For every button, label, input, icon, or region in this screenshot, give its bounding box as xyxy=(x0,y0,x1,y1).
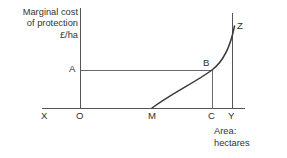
point-label-a: A xyxy=(69,63,75,74)
x-axis-label-line-2: hectares xyxy=(214,138,250,150)
x-axis-label-line-1: Area: xyxy=(214,126,250,138)
point-label-c: C xyxy=(208,110,215,121)
point-label-b: B xyxy=(203,57,209,68)
y-axis-label: Marginal cost of protection £/ha xyxy=(8,7,78,41)
point-label-x: X xyxy=(41,110,47,121)
point-label-y: Y xyxy=(228,110,234,121)
marginal-cost-diagram: Marginal cost of protection £/ha Area: h… xyxy=(0,0,287,158)
y-axis-label-line-2: of protection xyxy=(8,18,78,29)
marginal-cost-curve xyxy=(152,26,235,108)
x-axis-label: Area: hectares xyxy=(214,126,250,149)
y-axis-label-line-3: £/ha xyxy=(8,30,78,41)
y-axis-label-line-1: Marginal cost xyxy=(8,7,78,18)
point-label-z: Z xyxy=(237,20,243,31)
point-label-m: M xyxy=(148,110,156,121)
point-label-o: O xyxy=(76,110,83,121)
